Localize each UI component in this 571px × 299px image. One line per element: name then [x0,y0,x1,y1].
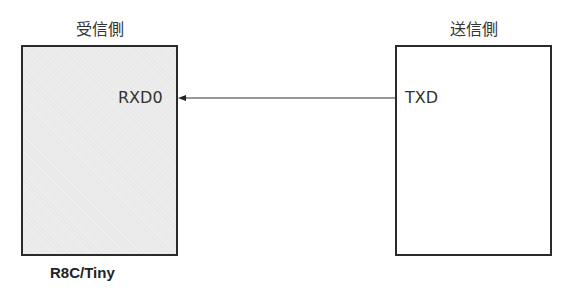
arrowhead-icon [178,95,186,101]
signal-arrow [0,0,571,299]
device-caption: R8C/Tiny [50,264,115,281]
